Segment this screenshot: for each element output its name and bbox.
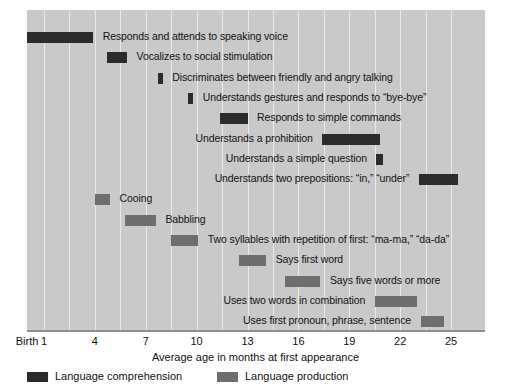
milestone-label: Understands a simple question <box>226 151 367 166</box>
bar-row: Discriminates between friendly and angry… <box>27 72 485 85</box>
x-tick-7: 7 <box>143 334 149 348</box>
bar-row: Responds to simple commands <box>27 112 485 125</box>
legend-label-production: Language production <box>245 370 348 383</box>
milestone-label: Responds and attends to speaking voice <box>103 29 288 44</box>
bar-row: Says first word <box>27 254 485 267</box>
x-tick-birth: Birth <box>16 334 39 348</box>
x-tick-13: 13 <box>241 334 253 348</box>
milestone-bar <box>322 134 380 145</box>
legend-label-comprehension: Language comprehension <box>55 370 182 383</box>
bar-row: Vocalizes to social stimulation <box>27 51 485 64</box>
milestone-label: Discriminates between friendly and angry… <box>172 70 392 85</box>
milestone-bar <box>107 52 127 63</box>
x-axis-title: Average age in months at first appearanc… <box>0 350 511 365</box>
language-milestones-chart: Responds and attends to speaking voiceVo… <box>0 0 511 389</box>
legend-swatch-production-icon <box>217 372 238 382</box>
bar-row: Understands two prepositions: “in,” “und… <box>27 173 485 186</box>
legend-item-comprehension: Language comprehension <box>27 370 182 383</box>
x-tick-10: 10 <box>191 334 203 348</box>
milestone-label: Uses first pronoun, phrase, sentence <box>243 313 411 328</box>
bar-row: Uses two words in combination <box>27 295 485 308</box>
x-axis-tick-labels: Birth147101316192225 <box>0 334 511 350</box>
plot-area: Responds and attends to speaking voiceVo… <box>27 10 485 332</box>
milestone-bar <box>158 73 163 84</box>
milestone-bar <box>375 296 417 307</box>
bar-row: Cooing <box>27 193 485 206</box>
milestone-label: Uses two words in combination <box>223 293 365 308</box>
milestone-label: Cooing <box>120 191 153 206</box>
bar-row: Understands a prohibition <box>27 133 485 146</box>
milestone-label: Two syllables with repetition of first: … <box>208 232 449 247</box>
milestone-label: Babbling <box>165 212 205 227</box>
milestone-label: Says first word <box>276 252 343 267</box>
bar-row: Babbling <box>27 214 485 227</box>
milestone-bar <box>95 194 110 205</box>
milestone-label: Vocalizes to social stimulation <box>137 49 273 64</box>
x-tick-16: 16 <box>292 334 304 348</box>
milestone-bar <box>188 93 193 104</box>
milestone-bar <box>239 255 266 266</box>
bar-row: Two syllables with repetition of first: … <box>27 234 485 247</box>
bar-row: Responds and attends to speaking voice <box>27 31 485 44</box>
milestone-label: Responds to simple commands <box>257 110 401 125</box>
x-tick-1: 1 <box>41 334 47 348</box>
bar-row: Says five words or more <box>27 275 485 288</box>
milestone-bar <box>285 276 321 287</box>
legend-item-production: Language production <box>217 370 348 383</box>
milestone-bar <box>125 215 156 226</box>
bar-row: Understands gestures and responds to “by… <box>27 92 485 105</box>
milestone-label: Understands a prohibition <box>196 131 313 146</box>
bar-row: Uses first pronoun, phrase, sentence <box>27 315 485 328</box>
x-tick-22: 22 <box>394 334 406 348</box>
x-tick-19: 19 <box>343 334 355 348</box>
milestone-bar <box>421 316 445 327</box>
milestone-bar <box>171 235 198 246</box>
bar-row: Understands a simple question <box>27 153 485 166</box>
milestone-label: Understands two prepositions: “in,” “und… <box>215 171 410 186</box>
x-axis-line <box>27 330 485 332</box>
milestone-bar <box>27 32 93 43</box>
x-tick-4: 4 <box>92 334 98 348</box>
milestone-label: Says five words or more <box>330 273 440 288</box>
chart-legend: Language comprehension Language producti… <box>27 370 487 386</box>
milestone-bar <box>220 113 247 124</box>
milestone-bar <box>419 174 458 185</box>
legend-swatch-comprehension-icon <box>27 372 48 382</box>
milestone-label: Understands gestures and responds to “by… <box>203 90 427 105</box>
milestone-bar <box>376 154 383 165</box>
x-tick-25: 25 <box>445 334 457 348</box>
